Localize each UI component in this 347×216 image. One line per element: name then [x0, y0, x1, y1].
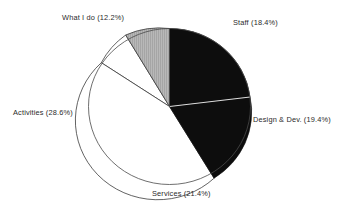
- pie-label-activities: Activities (28.6%): [13, 108, 73, 117]
- pie-label-services: Services (21.4%): [152, 189, 211, 198]
- pie-chart: Staff (18.4%) Design & Dev. (19.4%) Serv…: [0, 0, 347, 216]
- pie-label-staff: Staff (18.4%): [233, 18, 278, 27]
- pie-slice-staff[interactable]: [170, 28, 251, 106]
- pie-label-design-dev: Design & Dev. (19.4%): [253, 115, 331, 124]
- pie-label-what-i-do: What I do (12.2%): [62, 13, 124, 22]
